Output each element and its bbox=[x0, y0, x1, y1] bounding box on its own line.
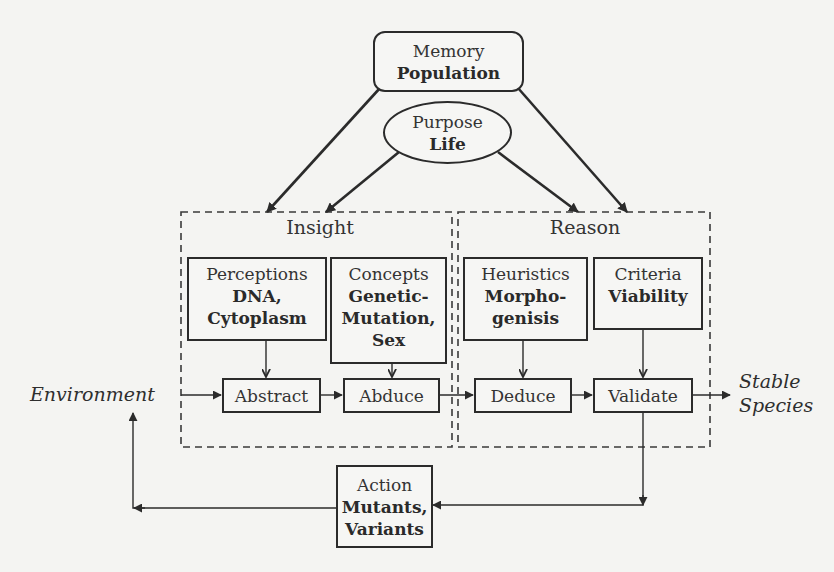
reason-group-label: Reason bbox=[525, 216, 645, 238]
validate-node[interactable]: Validate bbox=[593, 378, 693, 413]
criteria-subtitle: Viability bbox=[608, 285, 687, 307]
concepts-node[interactable]: Concepts Genetic- Mutation, Sex bbox=[330, 257, 447, 364]
edge-memory-insight bbox=[267, 88, 380, 212]
action-node[interactable]: Action Mutants, Variants bbox=[336, 465, 433, 548]
diagram-canvas: Memory Population Purpose Life Insight R… bbox=[0, 0, 834, 572]
deduce-label: Deduce bbox=[490, 385, 555, 407]
purpose-node[interactable]: Purpose Life bbox=[383, 101, 512, 164]
memory-title: Memory bbox=[413, 40, 485, 62]
heuristics-node[interactable]: Heuristics Morpho- genisis bbox=[463, 257, 588, 341]
validate-label: Validate bbox=[608, 385, 678, 407]
edge-action-environment bbox=[133, 413, 336, 508]
stable-species-label: Stable Species bbox=[739, 369, 813, 417]
concepts-subtitle: Genetic- Mutation, Sex bbox=[342, 285, 436, 351]
abstract-node[interactable]: Abstract bbox=[222, 378, 321, 413]
edge-purpose-insight bbox=[326, 152, 399, 212]
action-title: Action bbox=[357, 474, 412, 496]
purpose-subtitle: Life bbox=[429, 133, 466, 155]
edge-validate-action bbox=[433, 413, 643, 505]
insight-group-label: Insight bbox=[260, 216, 380, 238]
heuristics-title: Heuristics bbox=[481, 263, 570, 285]
criteria-node[interactable]: Criteria Viability bbox=[593, 257, 703, 330]
concepts-title: Concepts bbox=[348, 263, 428, 285]
edge-purpose-reason bbox=[498, 152, 578, 212]
perceptions-node[interactable]: Perceptions DNA, Cytoplasm bbox=[187, 257, 327, 341]
action-subtitle: Mutants, Variants bbox=[342, 496, 428, 540]
memory-node[interactable]: Memory Population bbox=[373, 31, 524, 92]
abstract-label: Abstract bbox=[235, 385, 308, 407]
purpose-title: Purpose bbox=[412, 111, 482, 133]
memory-subtitle: Population bbox=[397, 62, 500, 84]
abduce-label: Abduce bbox=[359, 385, 424, 407]
edge-memory-reason bbox=[518, 88, 627, 212]
environment-label: Environment bbox=[30, 382, 155, 406]
perceptions-subtitle: DNA, Cytoplasm bbox=[207, 285, 307, 329]
perceptions-title: Perceptions bbox=[206, 263, 308, 285]
heuristics-subtitle: Morpho- genisis bbox=[485, 285, 567, 329]
abduce-node[interactable]: Abduce bbox=[343, 378, 440, 413]
criteria-title: Criteria bbox=[614, 263, 681, 285]
deduce-node[interactable]: Deduce bbox=[474, 378, 572, 413]
